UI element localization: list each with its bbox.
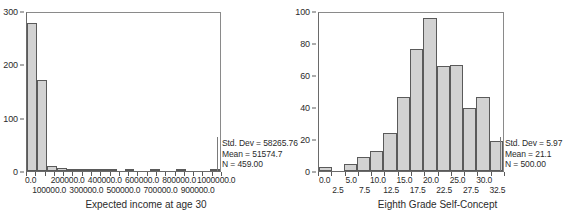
- bar: [87, 169, 97, 171]
- right-x-label: 0.0: [319, 176, 330, 185]
- right-plot-area: [318, 12, 504, 172]
- right-y-tick: 40: [300, 104, 316, 113]
- right-y-tick: 60: [300, 72, 316, 81]
- tick-mark-icon: [20, 65, 24, 66]
- histogram-panel-expected-income: 300 200 100 0: [0, 0, 292, 218]
- bar: [423, 18, 436, 171]
- right-mean-label: Mean = 21.1: [505, 149, 562, 160]
- bar: [97, 169, 107, 171]
- left-y-tick-label: 200: [3, 61, 18, 70]
- bar: [410, 49, 423, 171]
- bar: [67, 169, 77, 171]
- tick-mark-icon: [312, 108, 316, 109]
- right-y-tick: 80: [300, 40, 316, 49]
- bar: [463, 108, 476, 171]
- left-bar-series: [27, 13, 220, 171]
- right-x-label: 10.0: [370, 176, 386, 185]
- tick-mark-icon: [312, 140, 316, 141]
- tick-mark-icon: [312, 76, 316, 77]
- right-x-label: 17.5: [410, 186, 426, 195]
- right-bar-series: [319, 13, 503, 171]
- right-x-label: 5.0: [346, 176, 357, 185]
- stats-divider: [500, 137, 501, 171]
- tick-mark-icon: [20, 172, 24, 173]
- left-y-tick: 200: [3, 61, 24, 70]
- left-x-label: 500000.0: [106, 186, 140, 195]
- bar: [210, 169, 220, 171]
- bar: [319, 167, 332, 171]
- left-x-label: 400000.0: [88, 176, 122, 185]
- left-x-label: 0.0: [25, 176, 36, 185]
- left-x-label: 800000.0: [162, 176, 196, 185]
- bar: [450, 65, 463, 171]
- bar: [125, 169, 135, 171]
- left-mean-label: Mean = 51574.7: [222, 149, 298, 160]
- bar: [476, 97, 489, 171]
- left-x-label: 100000.0: [32, 186, 66, 195]
- left-y-tick: 300: [3, 8, 24, 17]
- right-x-label: 30.0: [476, 176, 492, 185]
- left-std-dev-label: Std. Dev = 58265.76: [222, 138, 298, 149]
- bar: [383, 133, 396, 171]
- bar: [370, 151, 383, 171]
- left-stats-box: Std. Dev = 58265.76 Mean = 51574.7 N = 4…: [222, 138, 298, 170]
- tick-mark-icon: [312, 12, 316, 13]
- right-x-label: 22.5: [436, 186, 452, 195]
- right-x-label: 20.0: [423, 176, 439, 185]
- left-x-label: 1000000.0: [197, 176, 235, 185]
- right-y-tick: 100: [295, 8, 316, 17]
- left-y-tick-label: 100: [3, 114, 18, 123]
- bar: [397, 97, 410, 171]
- left-x-labels-row2: 100000.0 300000.0 500000.0 700000.0 9000…: [26, 186, 221, 197]
- bar: [344, 164, 357, 171]
- right-x-label: 2.5: [332, 186, 343, 195]
- right-y-tick-label: 40: [300, 104, 310, 113]
- right-x-label: 12.5: [383, 186, 399, 195]
- left-x-label: 700000.0: [144, 186, 178, 195]
- left-x-label: 300000.0: [69, 186, 103, 195]
- left-x-label: 900000.0: [181, 186, 215, 195]
- bar: [77, 169, 87, 171]
- right-std-dev-label: Std. Dev = 5.97: [505, 138, 562, 149]
- stats-divider: [217, 137, 218, 171]
- right-x-label: 25.0: [450, 176, 466, 185]
- bar: [150, 169, 160, 171]
- right-x-label: 15.0: [396, 176, 412, 185]
- right-y-tick-label: 80: [300, 40, 310, 49]
- right-y-tick-label: 0: [305, 168, 310, 177]
- tick-mark-icon: [312, 44, 316, 45]
- left-x-label: 600000.0: [125, 176, 159, 185]
- histogram-figure-row: 300 200 100 0: [0, 0, 583, 218]
- right-n-label: N = 500.00: [505, 159, 562, 170]
- right-y-tick-label: 20: [300, 136, 310, 145]
- bar: [357, 157, 370, 171]
- right-x-label: 7.5: [359, 186, 370, 195]
- left-y-tick-label: 0: [13, 168, 18, 177]
- tick-mark-icon: [504, 172, 505, 176]
- bar: [47, 166, 57, 171]
- tick-mark-icon: [312, 172, 316, 173]
- right-y-tick: 20: [300, 136, 316, 145]
- right-y-axis: 100 80 60 40 20 0: [292, 12, 316, 172]
- left-y-axis: 300 200 100 0: [0, 12, 24, 172]
- left-y-tick-label: 300: [3, 8, 18, 17]
- bar: [437, 66, 450, 171]
- right-x-labels-row2: 2.5 7.5 12.5 17.5 22.5 27.5 32.5: [318, 186, 504, 197]
- left-axis-title: Expected income at age 30: [0, 199, 292, 211]
- bar: [176, 169, 186, 171]
- left-y-tick: 0: [13, 168, 24, 177]
- bar: [57, 168, 67, 171]
- right-stats-box: Std. Dev = 5.97 Mean = 21.1 N = 500.00: [505, 138, 562, 170]
- left-n-label: N = 459.00: [222, 159, 298, 170]
- right-y-tick-label: 60: [300, 72, 310, 81]
- left-x-label: 200000.0: [51, 176, 85, 185]
- tick-mark-icon: [20, 118, 24, 119]
- right-x-label: 32.5: [490, 186, 506, 195]
- left-plot-area: [26, 12, 221, 172]
- right-y-tick: 0: [305, 168, 316, 177]
- right-axis-title: Eighth Grade Self-Concept: [292, 199, 583, 211]
- right-x-label: 27.5: [463, 186, 479, 195]
- right-y-tick-label: 100: [295, 8, 310, 17]
- left-y-tick: 100: [3, 114, 24, 123]
- histogram-panel-self-concept: 100 80 60 40 20 0: [292, 0, 583, 218]
